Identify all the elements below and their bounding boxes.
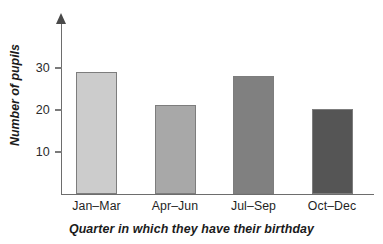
bar-jan-mar — [76, 72, 117, 194]
bar-chart-figure: 102030 Jan–MarApr–JunJul–SepOct–Dec Numb… — [0, 0, 383, 244]
bar-jul-sep — [233, 76, 274, 194]
bar-apr-jun — [155, 105, 196, 194]
x-category-label: Apr–Jun — [135, 199, 215, 213]
x-axis-line — [61, 194, 374, 195]
y-tick-mark — [55, 109, 62, 110]
x-category-label: Oct–Dec — [292, 199, 372, 213]
y-axis-arrow-icon — [56, 13, 66, 24]
x-axis-title: Quarter in which they have their birthda… — [0, 222, 383, 236]
x-category-label: Jul–Sep — [214, 199, 294, 213]
bar-oct-dec — [312, 109, 353, 194]
y-tick-mark — [55, 67, 62, 68]
x-category-label: Jan–Mar — [57, 199, 137, 213]
y-tick-mark — [55, 151, 62, 152]
y-axis-title: Number of pupils — [8, 35, 22, 155]
